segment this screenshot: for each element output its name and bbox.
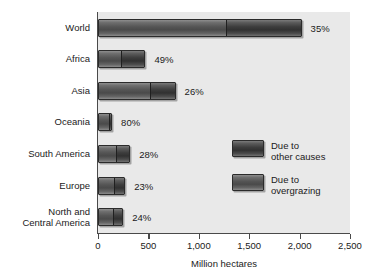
bar[interactable] [98,208,123,226]
category-label: World [0,23,90,34]
category-label: Oceania [0,117,90,128]
bar-segment-other-causes [226,20,301,36]
bar-segment-overgrazing [99,83,150,99]
category-label: Africa [0,54,90,65]
bar-value-label: 35% [311,22,330,33]
bar-segment-other-causes [116,146,129,162]
bar[interactable] [98,82,176,100]
x-tick-label: 1,000 [187,240,211,251]
bar-segment-other-causes [109,114,112,130]
bar-segment-overgrazing [99,178,114,194]
bar[interactable] [98,177,125,195]
x-tick-label: 1,500 [237,240,261,251]
category-label: Asia [0,86,90,97]
bar[interactable] [98,19,302,37]
x-tick-mark [249,234,250,239]
bar[interactable] [98,50,145,68]
x-tick-label: 2,000 [288,240,312,251]
x-axis-line [97,233,350,234]
x-tick-label: 2,500 [338,240,362,251]
bar-segment-other-causes [150,83,175,99]
chart-row: World35% [0,12,380,44]
legend-swatch-other-causes [232,140,264,157]
bar-segment-overgrazing [99,51,121,67]
bar-value-label: 24% [132,212,151,223]
x-tick-label: 500 [140,240,156,251]
bar-segment-other-causes [113,209,122,225]
legend-label: Due to other causes [271,140,325,162]
bar-value-label: 23% [134,180,153,191]
x-tick-mark [199,234,200,239]
bar-segment-other-causes [121,51,145,67]
bar[interactable] [98,145,130,163]
x-tick-mark [148,234,149,239]
bar-value-label: 26% [185,85,204,96]
x-tick-mark [98,234,99,239]
chart-figure: World35%Africa49%Asia26%Oceania80%South … [0,0,380,280]
chart-row: Africa49% [0,44,380,76]
category-label: Europe [0,180,90,191]
category-label: North and Central America [0,207,90,228]
x-tick-label: 0 [95,240,100,251]
bar-segment-overgrazing [99,146,116,162]
bar-segment-overgrazing [99,20,226,36]
bar-value-label: 28% [139,149,158,160]
x-axis-title: Million hectares [98,258,350,269]
legend-item[interactable]: Due to other causes [232,140,348,162]
legend-swatch-overgrazing [232,174,264,191]
legend-label: Due to overgrazing [271,174,321,196]
bar-segment-overgrazing [99,114,109,130]
bar-segment-other-causes [114,178,124,194]
bar-value-label: 80% [121,117,140,128]
bar-value-label: 49% [154,54,173,65]
bar-segment-overgrazing [99,209,113,225]
legend-item[interactable]: Due to overgrazing [232,174,348,196]
chart-legend: Due to other causesDue to overgrazing [232,140,348,208]
chart-row: Asia26% [0,75,380,107]
category-label: South America [0,149,90,160]
x-tick-mark [300,234,301,239]
chart-row: Oceania80% [0,107,380,139]
x-tick-mark [350,234,351,239]
bar[interactable] [98,113,112,131]
